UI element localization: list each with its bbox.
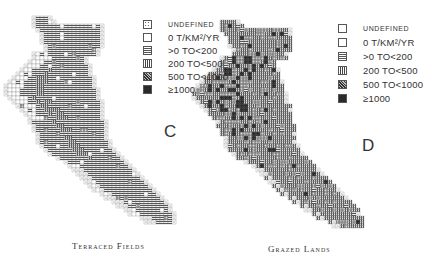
swatch-undefined (338, 24, 347, 33)
panel-letter-d: D (362, 136, 374, 156)
swatch-lt1000 (143, 72, 152, 81)
swatch-undefined (143, 20, 152, 29)
legend-label: 500 TO<1000 (363, 79, 423, 90)
legend-label: ≥1000 (363, 93, 390, 104)
legend-label: ≥1000 (168, 84, 195, 95)
legend-label: 0 T/KM²/YR (168, 32, 219, 43)
swatch-ge1000 (338, 94, 347, 103)
map-title-terraced-fields: Terraced Fields (72, 241, 145, 251)
legend-label: 200 TO<500 (363, 65, 418, 76)
panel-letter-c: C (164, 122, 176, 142)
map-title-grazed-lands: Grazed Lands (268, 244, 331, 254)
swatch-lt200 (143, 46, 152, 55)
swatch-lt200 (338, 52, 347, 61)
swatch-lt500 (338, 66, 347, 75)
legend-label: 500 TO<1000 (168, 71, 228, 82)
swatch-lt1000 (338, 80, 347, 89)
swatch-zero (143, 33, 152, 42)
swatch-ge1000 (143, 85, 152, 94)
legend-label: >0 TO<200 (363, 51, 413, 62)
swatch-zero (338, 38, 347, 47)
swatch-lt500 (143, 59, 152, 68)
legend-label: 0 T/KM²/YR (363, 37, 414, 48)
legend-label: 200 TO<500 (168, 58, 223, 69)
legend-label: UNDEFINED (168, 21, 214, 28)
legend-label: UNDEFINED (363, 25, 409, 32)
legend-label: >0 TO<200 (168, 45, 218, 56)
